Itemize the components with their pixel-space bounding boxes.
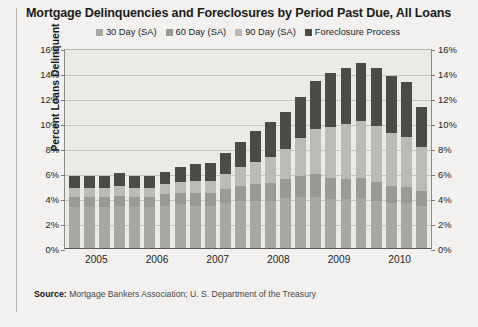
bar-segment (386, 133, 397, 186)
source-label: Source: (34, 289, 67, 299)
x-tick-label: 2006 (146, 254, 169, 265)
legend-swatch-30-day (96, 29, 103, 36)
bar-column[interactable] (293, 50, 308, 248)
bar-segment (144, 176, 155, 189)
bar-column[interactable] (127, 50, 142, 248)
x-axis: 200520062007200820092010 (64, 252, 432, 268)
bar-segment (416, 107, 427, 147)
bar-segment (235, 167, 246, 186)
bar-segment (99, 197, 110, 207)
bar-segment (325, 73, 336, 127)
bar-column[interactable] (218, 50, 233, 248)
bar-column[interactable] (278, 50, 293, 248)
legend-item-60-day[interactable]: 60 Day (SA) (166, 27, 227, 37)
x-tick-label: 2005 (85, 254, 108, 265)
source-text: Mortgage Bankers Association; U. S. Depa… (67, 289, 316, 299)
bar-column[interactable] (203, 50, 218, 248)
bar-column[interactable] (399, 50, 414, 248)
y-tick-label-right: 4% (438, 194, 452, 205)
bar-segment (114, 196, 125, 206)
bar-column[interactable] (369, 50, 384, 248)
source-note: Source: Mortgage Bankers Association; U.… (34, 289, 316, 299)
legend-item-30-day[interactable]: 30 Day (SA) (96, 27, 157, 37)
bar-segment (310, 81, 321, 130)
bar-segment (341, 179, 352, 199)
bar-segment (371, 68, 382, 126)
bar-column[interactable] (414, 50, 429, 248)
bar-segment (144, 207, 155, 248)
bar-column[interactable] (233, 50, 248, 248)
bar-column[interactable] (112, 50, 127, 248)
bar-column[interactable] (188, 50, 203, 248)
left-accent-rule (16, 8, 17, 312)
bar-segment (401, 203, 412, 248)
bar-segment (295, 138, 306, 176)
bar-segment (356, 198, 367, 248)
bar-column[interactable] (338, 50, 353, 248)
bar-column[interactable] (67, 50, 82, 248)
bar-segment (280, 179, 291, 198)
bar-segment (114, 206, 125, 249)
bar-stack (99, 176, 110, 249)
bar-column[interactable] (173, 50, 188, 248)
y-tick-label-left: 0% (45, 244, 59, 255)
bar-column[interactable] (384, 50, 399, 248)
bar-segment (250, 201, 261, 249)
bar-stack (235, 142, 246, 248)
chart-panel: Mortgage Delinquencies and Foreclosures … (26, 6, 470, 321)
bar-segment (175, 193, 186, 204)
bar-column[interactable] (323, 50, 338, 248)
y-tick-label-left: 8% (45, 144, 59, 155)
bar-segment (220, 203, 231, 248)
bar-segment (341, 124, 352, 179)
bar-segment (220, 189, 231, 203)
y-tick-label-right: 16% (438, 44, 457, 55)
bar-column[interactable] (97, 50, 112, 248)
bar-segment (235, 201, 246, 249)
bar-segment (235, 142, 246, 167)
bar-stack (205, 163, 216, 248)
bar-stack (175, 167, 186, 248)
bar-stack (144, 176, 155, 249)
x-tick-label: 2007 (206, 254, 229, 265)
bar-segment (129, 176, 140, 189)
legend-item-90-day[interactable]: 90 Day (SA) (235, 27, 296, 37)
bar-stack (341, 68, 352, 248)
bar-segment (265, 122, 276, 157)
bar-segment (114, 186, 125, 196)
bar-stack (371, 68, 382, 248)
bar-segment (371, 182, 382, 201)
bar-segment (190, 181, 201, 194)
bar-segment (325, 127, 336, 178)
bar-segment (280, 149, 291, 179)
bar-column[interactable] (82, 50, 97, 248)
bar-segment (69, 207, 80, 248)
y-axis-left: 16%14%12%10%8%6%4%2%0% (34, 44, 62, 254)
bar-segment (310, 197, 321, 248)
plot-grid (64, 49, 432, 249)
bar-segment (250, 162, 261, 185)
bar-segment (160, 184, 171, 194)
bar-segment (386, 186, 397, 204)
legend-swatch-foreclosure (305, 29, 312, 36)
bar-column[interactable] (353, 50, 368, 248)
bar-column[interactable] (157, 50, 172, 248)
y-tick-label-left: 12% (40, 94, 59, 105)
bar-segment (235, 186, 246, 201)
bar-segment (295, 197, 306, 248)
legend-label-30-day: 30 Day (SA) (106, 27, 157, 37)
y-tickmark-left (61, 250, 65, 251)
bar-segment (371, 201, 382, 249)
bar-segment (69, 176, 80, 189)
bar-column[interactable] (308, 50, 323, 248)
bar-segment (190, 206, 201, 249)
bar-stack (356, 63, 367, 248)
legend-swatch-90-day (235, 29, 242, 36)
bar-segment (99, 207, 110, 248)
y-tick-label-right: 6% (438, 169, 452, 180)
legend-item-foreclosure[interactable]: Foreclosure Process (305, 27, 400, 37)
bar-column[interactable] (263, 50, 278, 248)
bar-segment (175, 182, 186, 193)
bar-column[interactable] (142, 50, 157, 248)
bar-column[interactable] (248, 50, 263, 248)
